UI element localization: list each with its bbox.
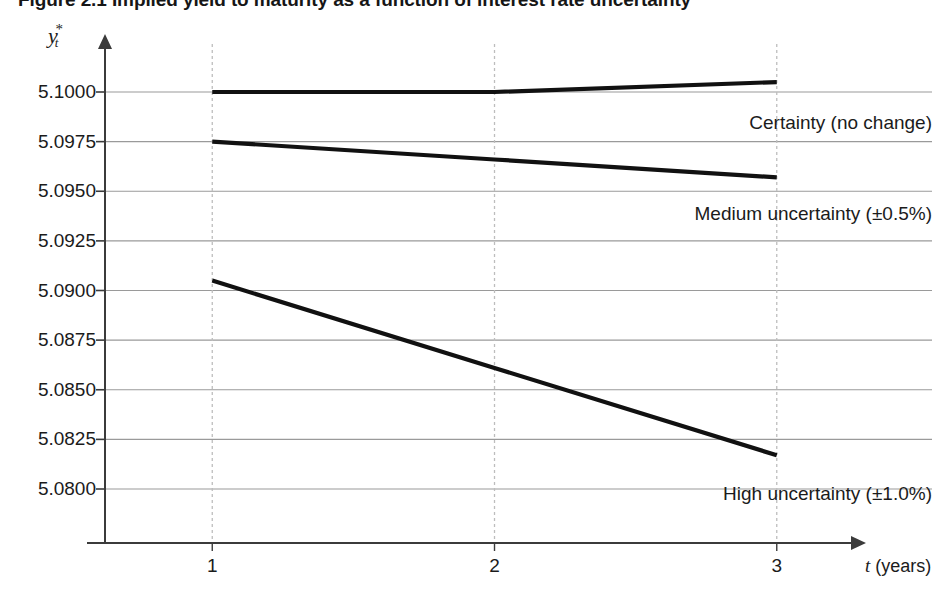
x-axis-tick-label: 2 bbox=[489, 555, 500, 577]
vertical-guides-group bbox=[212, 44, 777, 551]
figure-container: Figure 2.1 Implied yield to maturity as … bbox=[0, 0, 946, 592]
y-axis-tick-label: 5.0875 bbox=[12, 329, 96, 351]
series-label-0: Certainty (no change) bbox=[749, 112, 932, 134]
y-axis-tick-label: 5.0900 bbox=[12, 280, 96, 302]
series-label-1: Medium uncertainty (±0.5%) bbox=[695, 203, 932, 225]
y-axis-title-sup: * bbox=[55, 21, 63, 37]
x-axis-title-unit: (years) bbox=[870, 556, 931, 576]
y-axis-ticklabels: 5.10005.09755.09505.09255.09005.08755.08… bbox=[8, 0, 96, 592]
y-axis-title: yt* bbox=[48, 23, 69, 49]
x-axis-tick-label: 3 bbox=[771, 555, 782, 577]
y-axis-tick-label: 5.0825 bbox=[12, 428, 96, 450]
y-axis-tick-label: 5.0925 bbox=[12, 230, 96, 252]
x-axis-tick-label: 1 bbox=[207, 555, 218, 577]
gridlines-group bbox=[96, 92, 932, 489]
y-axis-tick-label: 5.0975 bbox=[12, 131, 96, 153]
y-axis-title-sub: t bbox=[55, 35, 59, 50]
y-axis-tick-label: 5.0850 bbox=[12, 379, 96, 401]
y-axis-tick-label: 5.1000 bbox=[12, 81, 96, 103]
x-axis-title: t (years) bbox=[865, 555, 931, 577]
x-axis-arrowhead bbox=[851, 536, 866, 550]
y-axis-tick-label: 5.0800 bbox=[12, 478, 96, 500]
series-label-2: High uncertainty (±1.0%) bbox=[723, 483, 932, 505]
y-axis-tick-label: 5.0950 bbox=[12, 180, 96, 202]
y-axis-arrowhead bbox=[98, 34, 112, 49]
